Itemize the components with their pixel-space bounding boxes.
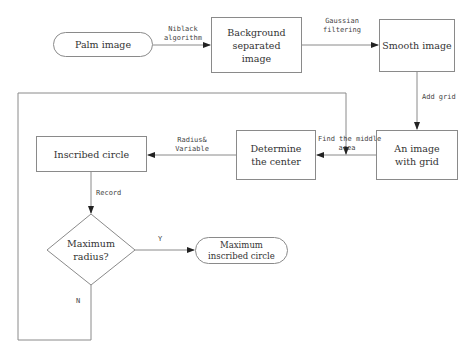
- no-label: N: [76, 297, 80, 306]
- find-middle-label: Find the middle area: [318, 135, 376, 153]
- max-inscribed-circle-node: Maximum inscribed circle: [195, 237, 288, 264]
- smooth-image-label: Smooth image: [382, 39, 451, 52]
- inscribed-circle-node: Inscribed circle: [36, 136, 147, 172]
- gaussian-label: Gaussian filtering: [320, 17, 364, 35]
- background-separated-node: Background separated image: [211, 17, 302, 73]
- smooth-image-node: Smooth image: [379, 19, 455, 72]
- niblack-label: Niblack algorithm: [163, 25, 203, 43]
- determine-center-label: Determine the center: [245, 142, 307, 168]
- max-inscribed-circle-label: Maximum inscribed circle: [204, 240, 279, 262]
- palm-image-label: Palm image: [75, 38, 131, 51]
- palm-image-node: Palm image: [53, 32, 153, 57]
- image-with-grid-node: An image with grid: [376, 130, 458, 180]
- radius-variable-label: Radius& Variable: [170, 136, 214, 154]
- yes-label: Y: [158, 235, 162, 244]
- image-with-grid-label: An image with grid: [385, 142, 449, 168]
- determine-center-node: Determine the center: [236, 130, 316, 180]
- decision-label: Maximum radius?: [61, 237, 121, 263]
- inscribed-circle-label: Inscribed circle: [54, 148, 129, 161]
- add-grid-label: Add grid: [422, 93, 456, 102]
- background-separated-label: Background separated image: [218, 26, 295, 65]
- record-label: Record: [96, 189, 121, 198]
